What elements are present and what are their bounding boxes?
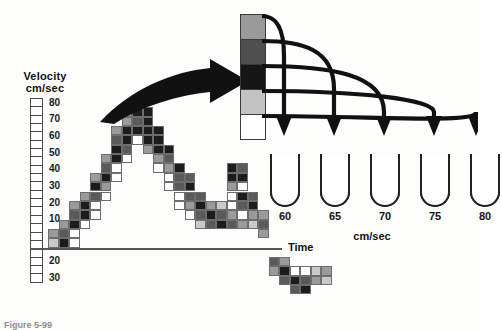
velocity-axis-tick-label: 60 (49, 130, 60, 141)
waveform-cell (227, 182, 238, 191)
red-blood-cell-icon (396, 200, 402, 206)
waveform-cell (269, 257, 280, 266)
scale-to-tube-arrow-80 (262, 112, 476, 119)
waveform-cell (101, 182, 112, 191)
waveform-cell (174, 201, 185, 210)
waveform-cell (153, 135, 164, 144)
waveform-cell (132, 135, 143, 144)
waveform-cell (80, 210, 91, 219)
waveform-cell (237, 192, 248, 201)
velocity-axis-tick-label: 50 (49, 147, 60, 158)
test-tube-75 (418, 152, 452, 208)
waveform-cell (122, 145, 133, 154)
waveform-cell (143, 126, 154, 135)
waveform-cell (185, 210, 196, 219)
waveform-cell (206, 210, 217, 219)
waveform-cell (101, 163, 112, 172)
waveform-cell (237, 210, 248, 219)
velocity-axis-tick-label: 40 (49, 164, 60, 175)
waveform-cell (132, 126, 143, 135)
waveform-cell (59, 220, 70, 229)
waveform-cell (185, 192, 196, 201)
waveform-cell (227, 192, 238, 201)
waveform-cell (321, 276, 332, 285)
waveform-cell (80, 201, 91, 210)
arrowhead-icon (468, 116, 478, 136)
waveform-cell (227, 210, 238, 219)
tube-outline (471, 154, 499, 206)
tube-outline (421, 154, 449, 206)
waveform-cell (300, 285, 311, 294)
waveform-cell (248, 220, 259, 229)
waveform-cell (216, 210, 227, 219)
tube-label-80: 80 (468, 210, 502, 222)
waveform-cell (164, 145, 175, 154)
figure-caption: Figure 5-99 (4, 320, 94, 330)
waveform-cell (90, 201, 101, 210)
velocity-axis-tick-label: 70 (49, 114, 60, 125)
tube-outline (321, 154, 349, 206)
waveform-cell (185, 173, 196, 182)
waveform-cell (164, 154, 175, 163)
waveform-cell (248, 210, 259, 219)
waveform-cell (279, 276, 290, 285)
waveform-cell (185, 201, 196, 210)
waveform-cell (216, 201, 227, 210)
waveform-cell (227, 173, 238, 182)
tube-label-65: 65 (318, 210, 352, 222)
waveform-cell (69, 238, 80, 247)
waveform-cell (69, 220, 80, 229)
waveform-cell (269, 266, 280, 275)
waveform-cell (174, 192, 185, 201)
waveform-cell (174, 163, 185, 172)
waveform-cell (300, 276, 311, 285)
spectrum-to-scale-arrow (98, 58, 250, 124)
waveform-cell (290, 266, 301, 275)
waveform-cell (237, 163, 248, 172)
tube-label-70: 70 (368, 210, 402, 222)
waveform-cell (206, 220, 217, 229)
velocity-axis-title-line2: cm/sec (12, 82, 78, 94)
waveform-cell (153, 145, 164, 154)
scale-to-tube-arrow-75 (262, 91, 434, 118)
waveform-cell (80, 192, 91, 201)
waveform-cell (237, 220, 248, 229)
velocity-axis-title: Velocity cm/sec (12, 70, 78, 94)
waveform-cell (290, 276, 301, 285)
waveform-cell (101, 154, 112, 163)
waveform-cell (227, 220, 238, 229)
waveform-cell (59, 229, 70, 238)
waveform-cell (80, 220, 91, 229)
waveform-cell (164, 182, 175, 191)
waveform-cell (111, 173, 122, 182)
waveform-cell (206, 201, 217, 210)
arrowhead-icon (276, 116, 292, 136)
waveform-cell (216, 220, 227, 229)
velocity-axis-tick-label: 30 (49, 180, 60, 191)
test-tube-80 (468, 152, 502, 208)
waveform-cell (258, 220, 269, 229)
tube-label-75: 75 (418, 210, 452, 222)
test-tube-65 (318, 152, 352, 208)
waveform-cell (195, 192, 206, 201)
waveform-cell (300, 266, 311, 275)
waveform-cell (111, 145, 122, 154)
waveform-cell (101, 192, 112, 201)
waveform-cell (290, 285, 301, 294)
waveform-cell (195, 220, 206, 229)
waveform-cell (258, 210, 269, 219)
tube-units-label: cm/sec (268, 230, 476, 242)
velocity-axis: 8070605040302010102030 (30, 98, 43, 282)
tube-outline (371, 154, 399, 206)
waveform-cell (122, 135, 133, 144)
waveform-cell (248, 201, 259, 210)
waveform-cell (258, 229, 269, 238)
waveform-cell (111, 154, 122, 163)
scale-to-tube-arrows (262, 10, 478, 156)
waveform-cell (164, 173, 175, 182)
waveform-cell (279, 266, 290, 275)
test-tube-60 (268, 152, 302, 208)
waveform-cell (164, 163, 175, 172)
waveform-cell (122, 126, 133, 135)
